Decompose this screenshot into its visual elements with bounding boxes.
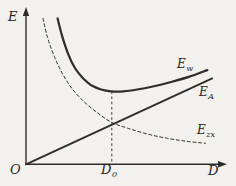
hyperbolic-cost-curve xyxy=(43,18,205,143)
hyperbolic-curve-label: Ezx xyxy=(197,124,215,136)
total-curve-label: Ew xyxy=(177,58,193,70)
x-axis-label: D xyxy=(208,164,218,177)
total-cost-curve xyxy=(58,18,208,91)
axes xyxy=(23,7,227,168)
x-axis-arrow-icon xyxy=(218,161,227,168)
linear-curve-label: EA xyxy=(199,86,214,98)
optimum-tick-label: D0 xyxy=(101,163,117,176)
origin-label: O xyxy=(10,163,21,176)
y-axis-label: E xyxy=(8,10,18,23)
economic-optimum-chart: E D O D0 Ew EA Ezx xyxy=(0,0,236,186)
y-axis-arrow-icon xyxy=(23,7,29,16)
